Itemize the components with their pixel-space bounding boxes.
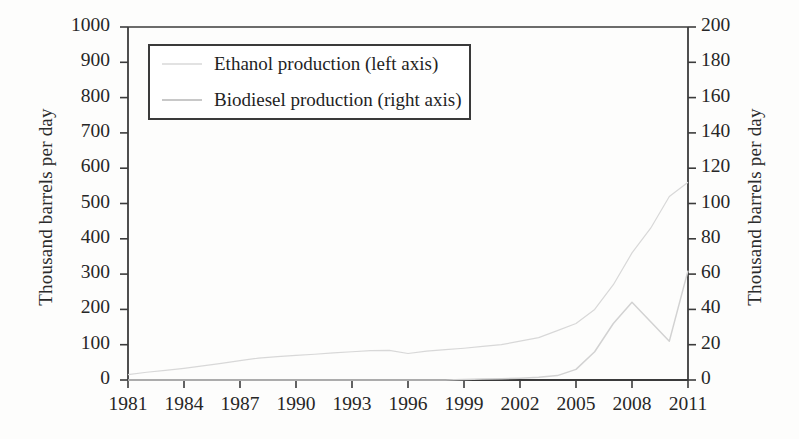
chart-page: Thousand barrels per day Thousand barrel… [0, 0, 799, 439]
series-line [128, 182, 688, 374]
legend-line-swatch [162, 63, 202, 65]
legend-label: Biodiesel production (right axis) [214, 89, 461, 111]
legend-entry: Biodiesel production (right axis) [150, 82, 469, 118]
data-series-layer [128, 182, 688, 380]
series-line [128, 271, 688, 380]
legend-entry: Ethanol production (left axis) [150, 46, 469, 82]
legend-line-swatch [162, 99, 202, 101]
chart-legend: Ethanol production (left axis)Biodiesel … [148, 44, 471, 120]
legend-label: Ethanol production (left axis) [214, 53, 438, 75]
